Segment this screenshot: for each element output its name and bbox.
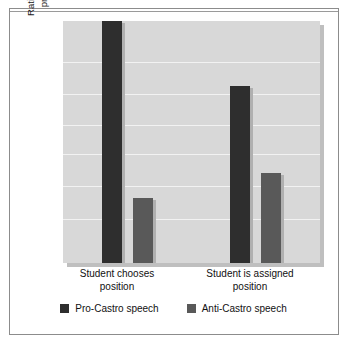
- legend-swatch-anti-castro-speech: [187, 304, 196, 313]
- bar-shadow-edge: [122, 23, 125, 263]
- category-label-0-line-1: Student chooses: [42, 268, 192, 281]
- bar-shadow-edge: [153, 200, 156, 263]
- bar-body: [102, 21, 122, 263]
- category-label-1-line-1: Student is assigned: [175, 268, 325, 281]
- bar-body: [133, 198, 153, 263]
- chart-legend: Pro-Castro speech Anti-Castro speech: [0, 303, 347, 314]
- bar-body: [230, 86, 250, 263]
- bar-shadow-edge: [250, 88, 253, 263]
- figure-top-rule: [10, 9, 338, 12]
- y-axis-title-line-2: pro-Castro attitude: [37, 0, 50, 7]
- legend-label-anti-castro-speech: Anti-Castro speech: [202, 303, 287, 314]
- plot-area: [63, 21, 320, 263]
- bar-0-1: [133, 198, 153, 263]
- bar-body: [261, 173, 281, 263]
- bar-0-0: [102, 21, 122, 263]
- category-label-1: Student is assigned position: [175, 268, 325, 293]
- bar-1-0: [230, 86, 250, 263]
- legend-swatch-pro-castro-speech: [60, 304, 69, 313]
- bar-1-1: [261, 173, 281, 263]
- legend-item-pro-castro-speech: Pro-Castro speech: [60, 303, 158, 314]
- category-label-0: Student chooses position: [42, 268, 192, 293]
- category-label-1-line-2: position: [175, 281, 325, 294]
- legend-label-pro-castro-speech: Pro-Castro speech: [75, 303, 158, 314]
- bar-shadow-edge: [281, 175, 284, 263]
- legend-item-anti-castro-speech: Anti-Castro speech: [187, 303, 287, 314]
- category-label-0-line-2: position: [42, 281, 192, 294]
